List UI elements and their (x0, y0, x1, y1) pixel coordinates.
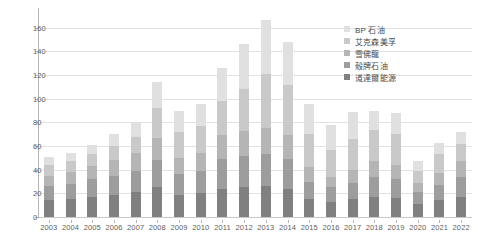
bar-group[interactable] (109, 134, 119, 217)
legend-item-label: 艾克森美孚 (355, 36, 396, 47)
bar-group[interactable] (87, 145, 97, 217)
bar-segment (348, 139, 358, 170)
x-axis-label: 2019 (388, 223, 405, 232)
bar-group[interactable] (369, 111, 379, 217)
bar-group[interactable] (217, 68, 227, 217)
bar-segment (217, 101, 227, 135)
bar-segment (87, 197, 97, 217)
legend-swatch-icon (344, 74, 350, 80)
bar-segment (348, 170, 358, 183)
bar-segment (87, 179, 97, 197)
bar-group[interactable] (261, 20, 271, 217)
bar-segment (66, 199, 76, 217)
bar-segment (217, 159, 227, 189)
bar-segment (413, 183, 423, 192)
bar-segment (369, 161, 379, 176)
bar-segment (152, 187, 162, 217)
bar-segment (283, 135, 293, 159)
bar-segment (391, 134, 401, 165)
legend-swatch-icon (344, 26, 350, 32)
bar-segment (66, 153, 76, 161)
legend-swatch-icon (344, 50, 350, 56)
bar-segment (174, 174, 184, 194)
bar-segment (66, 172, 76, 184)
bar-segment (66, 184, 76, 199)
bar-group[interactable] (196, 104, 206, 217)
bar-segment (283, 85, 293, 136)
x-axis-label: 2003 (40, 223, 57, 232)
bar-group[interactable] (304, 104, 314, 217)
bar-segment (109, 160, 119, 175)
bar-group[interactable] (326, 125, 336, 217)
bar-segment (174, 132, 184, 158)
legend-item[interactable]: 殼牌石油 (344, 60, 396, 70)
bar-segment (174, 111, 184, 132)
bar-segment (434, 143, 444, 155)
bar-segment (152, 82, 162, 108)
bar-segment (44, 165, 54, 176)
bar-group[interactable] (152, 82, 162, 217)
bar-segment (456, 177, 466, 197)
bar-segment (217, 189, 227, 217)
bar-segment (413, 204, 423, 217)
bar-group[interactable] (413, 161, 423, 217)
legend-item[interactable]: BP 石油 (344, 24, 396, 34)
x-axis-labels: 2003200420052006200720082009201020112012… (38, 220, 472, 236)
bar-group[interactable] (174, 111, 184, 217)
bar-segment (283, 159, 293, 189)
bar-group[interactable] (66, 153, 76, 217)
legend-item[interactable]: 雪佛龍 (344, 48, 396, 58)
bar-segment (44, 157, 54, 165)
bar-segment (283, 189, 293, 217)
bar-segment (109, 195, 119, 217)
bar-segment (391, 113, 401, 134)
bar-segment (196, 171, 206, 193)
bar-segment (348, 199, 358, 217)
bar-group[interactable] (283, 42, 293, 217)
bar-group[interactable] (44, 157, 54, 217)
chart-legend: BP 石油艾克森美孚雪佛龍殼牌石油道達爾能源 (344, 24, 396, 82)
bar-segment (66, 161, 76, 172)
x-axis-label: 2009 (171, 223, 188, 232)
bar-segment (304, 199, 314, 217)
x-axis-label: 2016 (322, 223, 339, 232)
x-axis-label: 2017 (344, 223, 361, 232)
bar-segment (87, 154, 97, 166)
legend-item[interactable]: 道達爾能源 (344, 72, 396, 82)
bar-segment (196, 104, 206, 126)
bar-segment (326, 202, 336, 217)
x-axis-label: 2021 (431, 223, 448, 232)
x-axis-label: 2011 (214, 223, 231, 232)
bar-segment (304, 104, 314, 135)
bar-segment (434, 200, 444, 217)
bar-segment (217, 135, 227, 159)
bar-segment (348, 112, 358, 139)
bar-segment (131, 122, 141, 136)
x-axis-label: 2015 (301, 223, 318, 232)
bar-segment (44, 200, 54, 217)
bar-group[interactable] (348, 112, 358, 217)
bar-group[interactable] (131, 122, 141, 217)
bar-segment (239, 187, 249, 217)
bar-segment (326, 177, 336, 188)
bar-group[interactable] (456, 132, 466, 217)
bar-group[interactable] (434, 143, 444, 217)
bar-segment (239, 44, 249, 89)
bar-segment (239, 131, 249, 156)
bar-group[interactable] (239, 44, 249, 217)
bar-segment (174, 158, 184, 175)
legend-swatch-icon (344, 38, 350, 44)
bar-group[interactable] (391, 113, 401, 217)
bar-segment (131, 171, 141, 192)
x-axis-label: 2012 (236, 223, 253, 232)
bar-segment (348, 183, 358, 200)
legend-item-label: 雪佛龍 (355, 48, 380, 59)
bar-segment (131, 153, 141, 171)
legend-item-label: 殼牌石油 (355, 60, 388, 71)
bar-segment (239, 89, 249, 130)
bar-segment (369, 197, 379, 217)
bar-segment (326, 187, 336, 201)
bar-segment (44, 186, 54, 200)
legend-item[interactable]: 艾克森美孚 (344, 36, 396, 46)
bar-segment (434, 154, 444, 173)
